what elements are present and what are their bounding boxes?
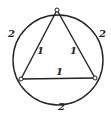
edge-label-left: 1 [37, 45, 44, 56]
arc-label-bottom: 2 [57, 101, 65, 112]
edge-bottom [21, 78, 95, 79]
vertex-bottom-right [93, 76, 97, 80]
vertex-top [55, 8, 59, 12]
edge-label-bottom: 1 [56, 66, 63, 77]
vertex-bottom-left [19, 77, 23, 81]
arc-label-left: 2 [7, 28, 15, 39]
arc-label-right: 2 [98, 28, 106, 39]
circumcircle [13, 15, 103, 105]
edge-label-right: 1 [70, 45, 77, 56]
diagram-canvas: 1 1 1 2 2 2 [0, 0, 111, 115]
